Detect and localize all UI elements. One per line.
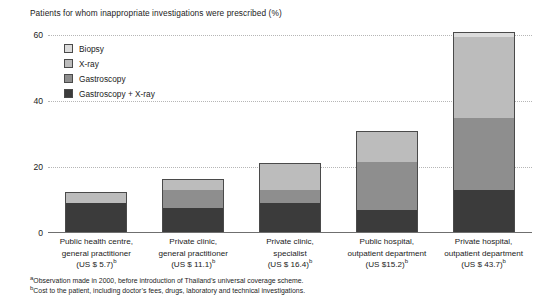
bar-segment[interactable] [453, 37, 515, 118]
bar-segment[interactable] [453, 118, 515, 191]
x-axis-category-label: Public health centre,general practitione… [48, 236, 145, 271]
bar-segment[interactable] [259, 190, 321, 203]
category-line-3: (US $15.2)b [338, 259, 435, 271]
y-axis-tick-label: 40 [33, 96, 43, 106]
bar-segment[interactable] [65, 192, 127, 204]
chart-figure: Patients for whom inappropriate investig… [0, 0, 548, 300]
bar-stack[interactable] [356, 131, 418, 233]
x-axis-category-label: Private hospital,outpatient department(U… [435, 236, 532, 271]
x-axis-category-label: Public hospital,outpatient department(US… [338, 236, 435, 271]
x-axis-category-label: Private clinic,specialist(US $ 16.4)b [242, 236, 339, 271]
category-line-1: Private clinic, [242, 236, 339, 248]
legend-item[interactable]: Gastroscopy [64, 71, 155, 86]
category-line-1: Private hospital, [435, 236, 532, 248]
footnote-marker: b [309, 259, 312, 265]
chart-legend: BiopsyX-rayGastroscopyGastroscopy + X-ra… [64, 41, 155, 101]
bar-segment[interactable] [162, 208, 224, 233]
bar-stack[interactable] [453, 32, 515, 233]
category-line-2: outpatient department [338, 248, 435, 260]
bar-segment[interactable] [356, 131, 418, 162]
legend-swatch-icon [64, 44, 73, 53]
footnote-marker: b [405, 259, 408, 265]
y-axis-tick-label: 60 [33, 30, 43, 40]
legend-item[interactable]: Biopsy [64, 41, 155, 56]
footnote-marker: b [113, 259, 116, 265]
y-axis-tick-label: 0 [38, 228, 43, 238]
x-axis-line [48, 232, 532, 233]
legend-item[interactable]: Gastroscopy + X-ray [64, 86, 155, 101]
footnote-marker: b [212, 259, 215, 265]
footnote-text: Cost to the patient, including doctor’s … [33, 287, 305, 294]
legend-item[interactable]: X-ray [64, 56, 155, 71]
legend-swatch-icon [64, 89, 73, 98]
legend-swatch-icon [64, 74, 73, 83]
category-line-1: Public hospital, [338, 236, 435, 248]
footnote: bCost to the patient, including doctor’s… [30, 286, 530, 296]
bar-segment[interactable] [162, 190, 224, 208]
legend-item-label: Biopsy [79, 44, 104, 54]
footnote: aObservation made in 2000, before introd… [30, 276, 530, 286]
legend-item-label: Gastroscopy + X-ray [79, 89, 155, 99]
legend-swatch-icon [64, 59, 73, 68]
category-line-1: Public health centre, [48, 236, 145, 248]
category-line-2: outpatient department [435, 248, 532, 260]
bar-stack[interactable] [162, 179, 224, 233]
legend-item-label: Gastroscopy [79, 74, 126, 84]
bar-segment[interactable] [162, 179, 224, 190]
category-line-2: specialist [242, 248, 339, 260]
legend-item-label: X-ray [79, 59, 99, 69]
bar-segment[interactable] [259, 163, 321, 190]
bar-segment[interactable] [356, 210, 418, 233]
bar-segment[interactable] [259, 203, 321, 233]
category-line-1: Private clinic, [145, 236, 242, 248]
category-line-3: (US $ 5.7)b [48, 259, 145, 271]
x-axis-category-labels: Public health centre,general practitione… [48, 236, 532, 274]
category-line-3: (US $ 43.7)b [435, 259, 532, 271]
footnote-marker: b [503, 259, 506, 265]
category-line-3: (US $ 11.1)b [145, 259, 242, 271]
chart-title: Patients for whom inappropriate investig… [30, 8, 282, 18]
category-line-2: general practitioner [48, 248, 145, 260]
bar-segment[interactable] [356, 162, 418, 210]
bar-segment[interactable] [65, 203, 127, 233]
x-axis-category-label: Private clinic,general practitioner(US $… [145, 236, 242, 271]
bar-segment[interactable] [453, 190, 515, 233]
category-line-3: (US $ 16.4)b [242, 259, 339, 271]
bar-stack[interactable] [65, 192, 127, 233]
footnote-text: Observation made in 2000, before introdu… [33, 277, 303, 284]
footnotes: aObservation made in 2000, before introd… [30, 276, 530, 295]
category-line-2: general practitioner [145, 248, 242, 260]
y-axis-tick-label: 20 [33, 162, 43, 172]
bar-stack[interactable] [259, 163, 321, 233]
